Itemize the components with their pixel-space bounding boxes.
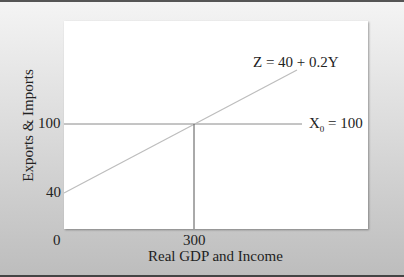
imports-line-label: Z = 40 + 0.2Y <box>253 54 339 71</box>
x-axis-label: Real GDP and Income <box>148 248 283 265</box>
y-axis-label: Exports & Imports <box>20 66 37 186</box>
chart-frame: Exports & Imports 100 40 0 300 Real GDP … <box>0 0 404 277</box>
x-tick-300: 300 <box>183 232 206 249</box>
exports-label-x: X <box>309 115 320 131</box>
y-tick-100: 100 <box>38 115 61 132</box>
imports-line <box>64 70 297 193</box>
exports-label-value: = 100 <box>324 115 362 131</box>
exports-line-label: X0 = 100 <box>309 115 363 134</box>
y-tick-40: 40 <box>46 184 61 201</box>
x-tick-0: 0 <box>53 232 61 249</box>
